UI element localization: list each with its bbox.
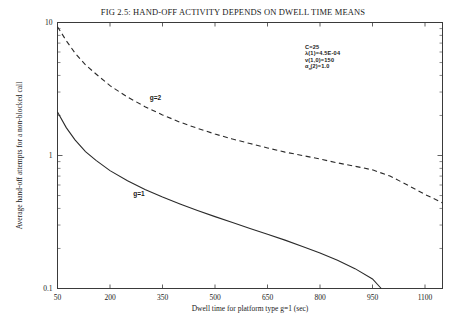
data-curve-g1 <box>58 112 382 288</box>
x-axis-tick-label: 50 <box>54 293 62 302</box>
annotation-line: λ(1)=4.5E-04 <box>305 50 341 56</box>
x-axis-title: Dwell time for platform type g=1 (sec) <box>192 304 309 313</box>
x-axis-tick-label: 1100 <box>418 293 433 302</box>
y-axis-tick-label: 1 <box>49 151 53 160</box>
y-axis-tick-label: 0.1 <box>43 284 53 293</box>
x-axis-tick-label: 800 <box>314 293 326 302</box>
y-axis-title: Average hand-off attempts for a non-bloc… <box>15 82 24 230</box>
x-axis-tick-label: 950 <box>367 293 379 302</box>
y-axis-tick-label: 10 <box>45 18 53 27</box>
x-axis-tick-label: 500 <box>209 293 221 302</box>
data-curve-g2 <box>58 27 443 203</box>
x-axis-tick-label: 350 <box>157 293 169 302</box>
chart-canvas: 502003505006508009501100Dwell time for p… <box>0 0 466 320</box>
annotation-line: C=25 <box>305 44 319 50</box>
figure-container: FIG 2.5: HAND-OFF ACTIVITY DEPENDS ON DW… <box>0 0 466 320</box>
x-axis-tick-label: 650 <box>262 293 274 302</box>
curve-label-g2: g=2 <box>150 94 162 102</box>
annotation-line: v(1,0)=150 <box>305 57 334 63</box>
x-axis-tick-label: 200 <box>104 293 116 302</box>
plot-frame <box>58 23 443 289</box>
curve-label-g1: g=1 <box>133 190 145 198</box>
annotation-subscript: n <box>309 66 312 71</box>
